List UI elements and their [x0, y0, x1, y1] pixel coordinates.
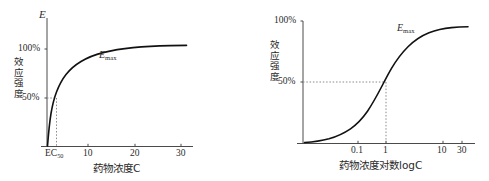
x-tick-label-10: 10 [83, 149, 93, 159]
emax-annotation: Emax [397, 23, 414, 34]
y-axis-title: 效应强度 [13, 57, 23, 99]
y-axis-title: 效应强度 [269, 40, 279, 82]
dose-response-curve [48, 45, 187, 146]
y-tick-label-50: 50% [278, 77, 295, 87]
x-tick-label-0.1: 0.1 [351, 146, 363, 156]
emax-annotation: Emax [99, 50, 116, 61]
x-tick-label-20: 20 [130, 149, 140, 159]
y-axis-symbol: E [39, 9, 46, 20]
y-tick-label-50: 50% [22, 93, 39, 103]
panel-log-dose-response: 100% 50% 效应强度 0.1 1 10 30 药物浓度对数logC Ema… [245, 0, 489, 181]
log-chart-svg [245, 0, 489, 181]
x-tick-label-10: 10 [437, 146, 447, 156]
ec50-base: EC [45, 148, 57, 158]
emax-subscript: max [105, 54, 116, 61]
emax-subscript: max [403, 27, 414, 34]
linear-chart-svg [0, 0, 245, 181]
x-axis-title: 药物浓度C [93, 163, 140, 174]
panel-linear-dose-response: E 100% 50% 效应强度 EC50 10 20 30 药物浓度C Emax [0, 0, 245, 181]
ec50-subscript: 50 [57, 152, 63, 159]
x-axis-title: 药物浓度对数logC [339, 160, 422, 171]
x-tick-label-ec50: EC50 [45, 149, 63, 159]
y-tick-label-100: 100% [274, 16, 296, 26]
dose-response-figure: E 100% 50% 效应强度 EC50 10 20 30 药物浓度C Emax [0, 0, 489, 181]
y-tick-label-100: 100% [18, 44, 40, 54]
x-tick-label-1: 1 [383, 146, 388, 156]
x-tick-label-30: 30 [176, 149, 186, 159]
x-tick-label-30: 30 [457, 146, 467, 156]
